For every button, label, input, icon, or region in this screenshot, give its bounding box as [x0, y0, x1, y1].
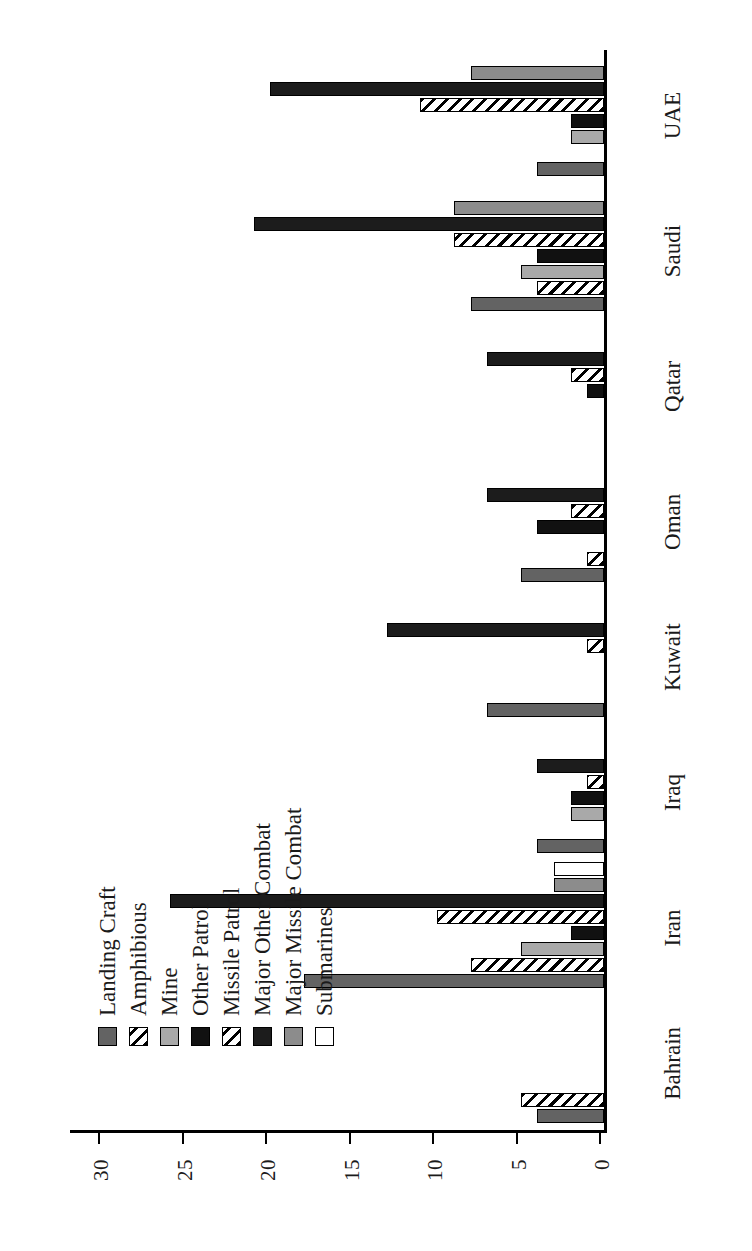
value-tick: [265, 1133, 267, 1144]
bar: [521, 265, 604, 279]
category-label: Bahrain: [660, 1027, 686, 1100]
bar: [571, 504, 604, 518]
bar: [471, 66, 605, 80]
bar: [454, 233, 604, 247]
category-label: UAE: [660, 92, 686, 139]
category-label: Oman: [660, 494, 686, 550]
bar: [571, 926, 604, 940]
value-tick: [432, 1133, 434, 1144]
bar: [420, 98, 604, 112]
bar: [554, 862, 604, 876]
bar: [254, 217, 604, 231]
bar: [571, 368, 604, 382]
bar: [537, 839, 604, 853]
bar: [537, 759, 604, 773]
bar: [537, 249, 604, 263]
chart-legend: Landing CraftAmphibiousMineOther PatrolM…: [92, 808, 340, 1046]
legend-swatch-icon: [315, 1027, 334, 1046]
legend-swatch-icon: [222, 1027, 241, 1046]
bar: [387, 623, 604, 637]
value-tick-label: 0: [590, 1159, 615, 1170]
bar: [537, 162, 604, 176]
legend-label: Major Missile Combat: [282, 808, 305, 1016]
bar: [487, 352, 604, 366]
legend-item: Missile Patrol: [216, 808, 247, 1046]
bar: [571, 130, 604, 144]
bar: [487, 703, 604, 717]
legend-label: Other Patrol: [189, 903, 212, 1016]
category-label: Qatar: [660, 361, 686, 412]
category-label: Iran: [660, 909, 686, 946]
legend-swatch-icon: [98, 1027, 117, 1046]
bar: [521, 942, 604, 956]
category-label: Saudi: [660, 225, 686, 277]
bar: [571, 114, 604, 128]
bar: [587, 552, 604, 566]
rotated-figure-wrapper: 051015202530 Landing CraftAmphibiousMine…: [0, 0, 752, 1251]
bar: [537, 1109, 604, 1123]
legend-swatch-icon: [253, 1027, 272, 1046]
bar: [471, 297, 605, 311]
value-tick-label: 15: [340, 1159, 365, 1181]
bar-group: [70, 454, 604, 589]
value-tick-label: 5: [507, 1159, 532, 1170]
category-axis-line: [604, 50, 607, 1133]
bar: [471, 958, 605, 972]
legend-swatch-icon: [129, 1027, 148, 1046]
value-tick-label: 25: [173, 1159, 198, 1181]
category-label: Iraq: [660, 774, 686, 811]
bar: [571, 807, 604, 821]
legend-item: Amphibious: [123, 808, 154, 1046]
bar: [587, 384, 604, 398]
legend-label: Landing Craft: [96, 886, 119, 1016]
legend-label: Major Other Combat: [251, 823, 274, 1016]
bar: [521, 568, 604, 582]
bar: [304, 974, 604, 988]
value-tick-label: 10: [423, 1159, 448, 1181]
bar-group: [70, 590, 604, 725]
legend-swatch-icon: [191, 1027, 210, 1046]
legend-item: Submarines: [309, 808, 340, 1046]
legend-item: Landing Craft: [92, 808, 123, 1046]
value-tick: [349, 1133, 351, 1144]
legend-item: Major Other Combat: [247, 808, 278, 1046]
value-tick: [182, 1133, 184, 1144]
bar-group: [70, 319, 604, 454]
bar: [587, 775, 604, 789]
value-tick: [599, 1133, 601, 1144]
legend-label: Amphibious: [127, 902, 150, 1016]
bar: [554, 878, 604, 892]
bar: [270, 82, 604, 96]
legend-item: Mine: [154, 808, 185, 1046]
bar: [437, 910, 604, 924]
bar: [537, 520, 604, 534]
legend-swatch-icon: [160, 1027, 179, 1046]
legend-label: Missile Patrol: [220, 888, 243, 1016]
bar: [521, 1093, 604, 1107]
legend-label: Submarines: [313, 907, 336, 1016]
bar: [454, 201, 604, 215]
bar-group: [70, 48, 604, 183]
bar: [487, 488, 604, 502]
value-tick-label: 30: [89, 1159, 114, 1181]
bar: [587, 639, 604, 653]
value-tick: [516, 1133, 518, 1144]
bar: [537, 281, 604, 295]
legend-item: Other Patrol: [185, 808, 216, 1046]
value-tick: [98, 1133, 100, 1144]
bar-group: [70, 183, 604, 318]
legend-item: Major Missile Combat: [278, 808, 309, 1046]
bar: [571, 791, 604, 805]
legend-label: Mine: [158, 967, 181, 1016]
bar-chart: 051015202530 Landing CraftAmphibiousMine…: [0, 0, 752, 1251]
legend-swatch-icon: [284, 1027, 303, 1046]
value-tick-label: 20: [256, 1159, 281, 1181]
category-label: Kuwait: [660, 623, 686, 691]
